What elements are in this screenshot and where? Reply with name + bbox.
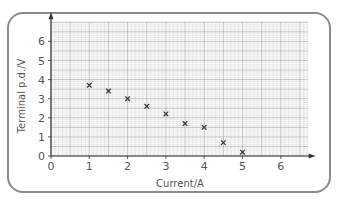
x-tick-label: 6 — [277, 160, 284, 173]
x-axis-title: Current/A — [156, 178, 204, 189]
y-tick-label: 5 — [38, 55, 45, 68]
x-tick-label: 4 — [201, 160, 208, 173]
y-tick-label: 0 — [38, 150, 45, 163]
y-tick-label: 4 — [38, 74, 45, 87]
y-tick-label: 3 — [38, 93, 45, 106]
scatter-chart: 01234560123456 Current/A Terminal p.d./V — [0, 0, 340, 208]
x-tick-label: 0 — [48, 160, 55, 173]
y-tick-label: 1 — [38, 131, 45, 144]
x-tick-label: 5 — [239, 160, 246, 173]
x-tick-label: 1 — [86, 160, 93, 173]
y-tick-label: 2 — [38, 112, 45, 125]
grid — [51, 22, 308, 156]
y-tick-label: 6 — [38, 35, 45, 48]
x-tick-label: 3 — [162, 160, 169, 173]
y-axis-title: Terminal p.d./V — [16, 58, 27, 134]
x-tick-label: 2 — [124, 160, 131, 173]
